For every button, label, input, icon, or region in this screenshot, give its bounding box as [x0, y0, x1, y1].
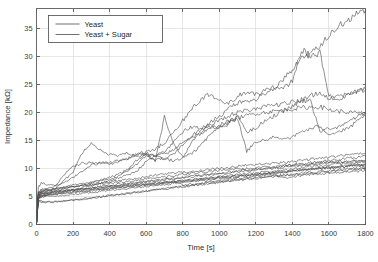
y-tick-label: 20 — [24, 108, 32, 117]
x-tick-label: 400 — [103, 229, 115, 238]
x-tick-label: 1000 — [211, 229, 227, 238]
chart-legend[interactable]: YeastYeast + Sugar — [49, 16, 163, 43]
x-tick-label: 1600 — [321, 229, 337, 238]
y-axis-title: Impedance [kΩ] — [3, 89, 12, 144]
x-tick-label: 1800 — [357, 229, 373, 238]
x-tick-label: 600 — [140, 229, 152, 238]
x-tick-label: 800 — [177, 229, 189, 238]
y-tick-label: 0 — [28, 220, 32, 229]
x-tick-label: 1400 — [284, 229, 300, 238]
legend-label-1: Yeast — [85, 20, 105, 29]
chart-canvas: 020040060080010001200140016001800 051015… — [0, 0, 378, 262]
y-tick-label: 15 — [24, 136, 32, 145]
y-tick-label: 10 — [24, 164, 32, 173]
x-axis-title: Time [s] — [187, 243, 214, 252]
y-tick-label: 5 — [28, 192, 32, 201]
y-tick-label: 25 — [24, 80, 32, 89]
x-tick-label: 1200 — [248, 229, 264, 238]
y-tick-label: 35 — [24, 24, 32, 33]
y-tick-label: 30 — [24, 52, 32, 61]
impedance-time-chart: 020040060080010001200140016001800 051015… — [0, 0, 378, 262]
x-tick-label: 0 — [34, 229, 38, 238]
legend-label-2: Yeast + Sugar — [85, 30, 133, 39]
x-tick-label: 200 — [67, 229, 79, 238]
